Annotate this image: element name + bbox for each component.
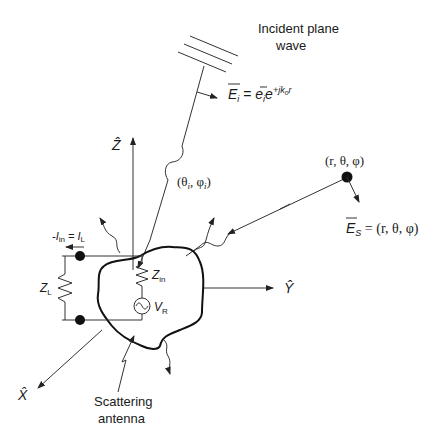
input-impedance-label: Zin xyxy=(151,268,166,284)
antenna-body xyxy=(98,247,204,349)
incident-wave-label-2: wave xyxy=(275,38,306,53)
x-axis xyxy=(38,330,102,388)
incident-field-equation: Ei = eie+jkor xyxy=(228,85,293,104)
load-impedance-label: ZL xyxy=(39,281,52,297)
plane-wavefront-icon xyxy=(178,36,238,72)
terminal-bottom xyxy=(75,315,85,325)
z-axis-label: Ẑ xyxy=(111,137,121,153)
current-label: -Iin = IL xyxy=(52,230,86,244)
incident-ray xyxy=(138,66,217,268)
incident-angles-label: (θi, φi) xyxy=(177,174,211,191)
scattered-waves xyxy=(100,218,214,374)
antenna-label-2: antenna xyxy=(98,411,146,426)
antenna-pointer xyxy=(118,336,134,392)
voltage-source-label: VR xyxy=(154,300,168,316)
scattering-diagram: Incident plane wave Ei = eie+jkor (θi, φ… xyxy=(0,0,436,439)
load-circuit xyxy=(58,247,150,325)
observation-point xyxy=(186,172,359,257)
incident-wave-label-1: Incident plane xyxy=(258,21,339,36)
y-axis-label: Ŷ xyxy=(284,280,295,296)
observation-point-label: (r, θ, φ) xyxy=(325,153,364,168)
terminal-top xyxy=(75,251,85,261)
input-resistor-icon xyxy=(136,264,148,286)
x-axis-label: X̂ xyxy=(17,387,28,403)
antenna-label-1: Scattering xyxy=(94,394,153,409)
scattered-field-equation: ES = (r, θ, φ) xyxy=(346,220,419,238)
load-resistor-icon xyxy=(58,274,72,302)
